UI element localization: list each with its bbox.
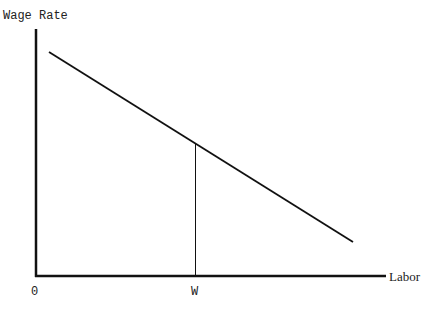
- diagram-canvas: Wage Rate Labor 0 W: [0, 0, 446, 311]
- w-tick-label: W: [191, 285, 198, 299]
- diagram-svg: [0, 0, 446, 311]
- origin-label: 0: [31, 285, 38, 299]
- demand-curve: [49, 52, 353, 242]
- x-axis-label: Labor: [389, 269, 420, 285]
- y-axis-label: Wage Rate: [3, 9, 68, 23]
